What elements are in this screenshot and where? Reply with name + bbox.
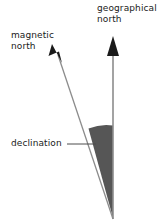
label-geographical-north-line1: geographical	[97, 3, 157, 13]
label-declination: declination	[11, 138, 62, 149]
label-magnetic-north-line1: magnetic	[11, 30, 54, 40]
label-magnetic-north-line2: north	[11, 41, 36, 51]
label-geographical-north: geographical north	[97, 3, 157, 24]
label-magnetic-north: magnetic north	[11, 30, 54, 51]
declination-angle-wedge	[89, 125, 114, 218]
geographical-north-arrowhead	[107, 36, 119, 56]
label-geographical-north-line2: north	[97, 14, 122, 24]
magnetic-declination-diagram: geographical north magnetic north declin…	[0, 0, 166, 220]
